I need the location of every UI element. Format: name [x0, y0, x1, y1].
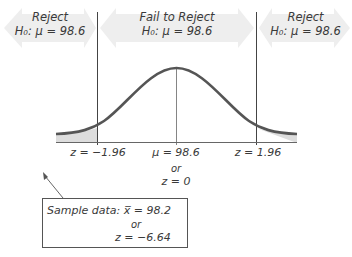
center-fail-label: Fail to Reject H₀: μ = 98.6 [100, 10, 254, 38]
pointer-line [45, 176, 63, 198]
right-reject-title: Reject [259, 10, 352, 24]
left-reject-label: Reject H₀: μ = 98.6 [4, 10, 96, 38]
left-tail-shade [56, 128, 97, 143]
left-reject-hypothesis: H₀: μ = 98.6 [4, 24, 96, 38]
left-reject-title: Reject [4, 10, 96, 24]
sample-data-line1: Sample data: x̅ = 98.2 [47, 204, 171, 217]
right-critical-label: z = 1.96 [222, 146, 294, 159]
center-fail-title: Fail to Reject [100, 10, 254, 24]
center-z-label: z = 0 [146, 175, 206, 188]
right-tail-shade [256, 128, 297, 143]
center-or-label: or [150, 162, 202, 175]
right-reject-hypothesis: H₀: μ = 98.6 [259, 24, 352, 38]
sample-data-z: z = −6.64 [115, 231, 171, 244]
sample-data-box: Sample data: x̅ = 98.2 or z = −6.64 [42, 198, 188, 248]
center-mean-label: μ = 98.6 [140, 146, 212, 159]
left-critical-label: z = −1.96 [62, 146, 134, 159]
right-reject-label: Reject H₀: μ = 98.6 [259, 10, 352, 38]
center-fail-hypothesis: H₀: μ = 98.6 [100, 24, 254, 38]
sample-data-or: or [131, 218, 141, 231]
